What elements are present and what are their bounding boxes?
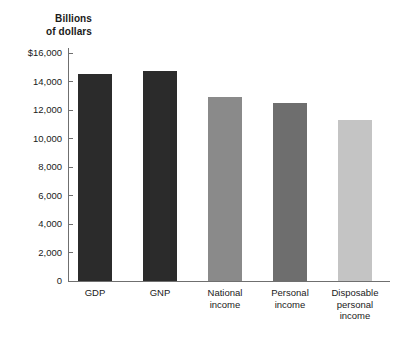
y-axis-tick <box>68 138 73 139</box>
x-axis-label-personal-income: Personalincome <box>253 287 327 310</box>
bar-chart-figure: Billions of dollars $16,00014,00012,0001… <box>0 0 398 338</box>
y-axis-tick-label: 4,000 <box>0 219 62 229</box>
y-axis-tick <box>68 110 73 111</box>
x-axis-line <box>68 281 390 282</box>
x-axis-label-gdp: GDP <box>58 287 132 299</box>
x-axis-label-line: National <box>188 287 262 299</box>
y-axis-tick-label: 12,000 <box>0 105 62 115</box>
y-axis-tick <box>68 252 73 253</box>
y-axis-tick-label: 6,000 <box>0 191 62 201</box>
x-axis-label-line: Personal <box>253 287 327 299</box>
y-axis-tick <box>68 81 73 82</box>
y-axis-tick <box>68 224 73 225</box>
y-axis-tick <box>68 195 73 196</box>
x-axis-label-line: income <box>318 310 392 322</box>
bar-personal-income <box>273 103 307 281</box>
y-axis-tick-label: 2,000 <box>0 248 62 258</box>
y-axis-line <box>68 48 69 282</box>
bar-gnp <box>143 71 177 281</box>
x-axis-label-line: Disposable <box>318 287 392 299</box>
y-axis-tick-label: 14,000 <box>0 77 62 87</box>
x-axis-label-line: income <box>253 299 327 311</box>
x-axis-label-line: GNP <box>123 287 197 299</box>
x-axis-label-gnp: GNP <box>123 287 197 299</box>
y-axis-tick <box>68 167 73 168</box>
x-axis-label-line: personal <box>318 299 392 311</box>
bar-disposable-personal-income <box>338 120 372 281</box>
y-axis-tick-label: 8,000 <box>0 162 62 172</box>
y-axis-tick <box>68 281 73 282</box>
x-axis-label-line: GDP <box>58 287 132 299</box>
plot-area: $16,00014,00012,00010,0008,0006,0004,000… <box>0 0 398 338</box>
y-axis-tick-label: 0 <box>0 276 62 286</box>
y-axis-tick <box>68 53 73 54</box>
bar-national-income <box>208 97 242 281</box>
y-axis-tick-label: 10,000 <box>0 134 62 144</box>
bar-gdp <box>78 74 112 281</box>
x-axis-label-national-income: Nationalincome <box>188 287 262 310</box>
x-axis-label-line: income <box>188 299 262 311</box>
y-axis-tick-label: $16,000 <box>0 48 62 58</box>
x-axis-label-disposable-personal-income: Disposablepersonalincome <box>318 287 392 322</box>
